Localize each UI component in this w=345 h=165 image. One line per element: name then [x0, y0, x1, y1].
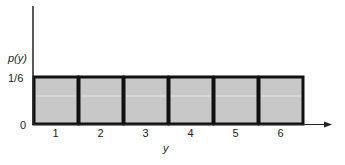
bar-5: [214, 77, 258, 124]
uniform-distribution-chart: [0, 0, 345, 165]
bars: [34, 77, 303, 124]
x-tick-label: 3: [143, 127, 149, 139]
y-tick-label-top: 1/6: [8, 72, 23, 84]
bar-6: [259, 77, 303, 124]
bar-1: [34, 77, 78, 124]
x-tick-label: 6: [278, 127, 284, 139]
x-axis-arrow-icon: [324, 122, 332, 128]
bar-4: [169, 77, 213, 124]
bar-2: [79, 77, 123, 124]
x-tick-label: 4: [188, 127, 194, 139]
x-tick-label: 2: [98, 127, 104, 139]
y-axis-label: p(y): [8, 52, 27, 64]
x-tick-label: 5: [233, 127, 239, 139]
x-axis-label: y: [163, 142, 169, 154]
bar-3: [124, 77, 168, 124]
x-tick-label: 1: [53, 127, 59, 139]
y-tick-label-zero: 0: [20, 119, 26, 131]
